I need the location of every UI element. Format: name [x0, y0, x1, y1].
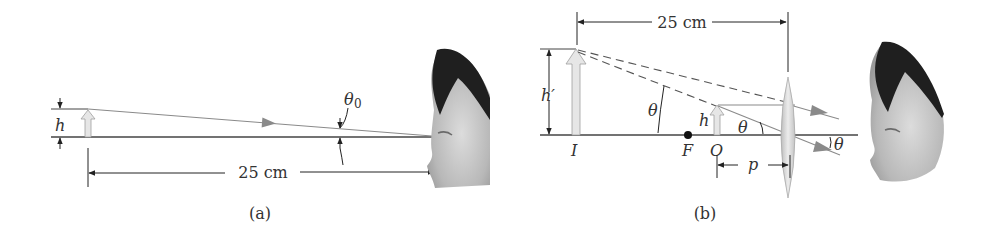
caption-b: (b) — [694, 204, 717, 223]
theta0-arc — [340, 108, 348, 128]
caption-a: (a) — [249, 204, 271, 223]
ray-a — [88, 109, 432, 136]
theta-label-image: θ — [648, 101, 658, 120]
object-arrow-a — [81, 110, 95, 137]
ray-direction-arrow-icon — [262, 117, 277, 128]
panel-b: 25 cm h′ I θ F h O θ θ — [540, 12, 944, 223]
distance-label-b: 25 cm — [657, 13, 707, 32]
magnifier-figure: h θ 0 25 cm (a) 25 cm — [0, 0, 984, 243]
observer-face-b — [870, 42, 944, 182]
theta-arc-exit — [830, 137, 831, 148]
image-label: I — [570, 141, 578, 160]
image-height-label: h′ — [541, 86, 555, 105]
converging-lens — [781, 77, 795, 198]
parallel-ray-arrow-icon — [810, 105, 828, 116]
observer-face-a — [427, 49, 490, 188]
theta-label-exit: θ — [834, 135, 844, 154]
theta0-lower-arc — [340, 148, 343, 165]
theta0-label: θ — [344, 90, 354, 109]
panel-a: h θ 0 25 cm (a) — [51, 49, 490, 223]
focal-label: F — [681, 141, 694, 160]
distance-label-a: 25 cm — [238, 163, 288, 182]
object-distance-label: p — [748, 155, 758, 174]
height-label-a: h — [55, 116, 65, 135]
object-height-label: h — [699, 111, 709, 130]
image-arrow — [566, 49, 586, 135]
theta0-subscript: 0 — [354, 97, 362, 111]
theta-label-object: θ — [738, 118, 748, 137]
dashed-ray-upper — [578, 50, 790, 103]
object-arrow-b — [710, 105, 724, 135]
theta-arc-image — [658, 86, 664, 133]
focal-point — [684, 131, 692, 139]
